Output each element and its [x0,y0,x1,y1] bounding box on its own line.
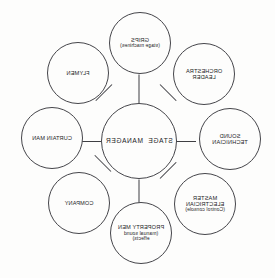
node-curtain-man[interactable]: CURTAIN MAN [21,107,83,169]
node-orchestra-leader-label-line2: LEADER [184,74,224,80]
node-orchestra-leader[interactable]: ORCHESTRA LEADER [173,43,235,105]
node-company[interactable]: COMPANY [48,172,110,234]
mirrored-artwork-layer: STAGE MANAGER GRIPS (stage machines) FLY… [0,0,275,278]
node-stage-manager[interactable]: STAGE MANAGER [101,103,177,179]
connector-center-to-orchestra-leader [160,84,177,101]
node-property-men[interactable]: PROPERTY MEN (manual sound effects) [110,202,172,264]
node-grips[interactable]: GRIPS (stage machines) [109,12,171,74]
node-sound-technician-label-line2: TECHNICIAN [210,139,250,145]
node-flymen[interactable]: FLYMEN [47,42,109,104]
connector-center-to-grips [139,75,140,105]
connector-center-to-property-men [139,180,140,204]
diagram-canvas: STAGE MANAGER GRIPS (stage machines) FLY… [0,0,275,278]
node-flymen-label: FLYMEN [64,70,91,76]
node-company-label: COMPANY [63,200,96,206]
node-sound-technician[interactable]: SOUND TECHNICIAN [199,108,261,170]
connector-center-to-sound-technician [176,141,196,142]
node-curtain-man-label: CURTAIN MAN [30,135,74,141]
node-master-electrician[interactable]: MASTER ELECTRICIAN (Control console) [174,173,236,235]
connector-center-to-curtain-man [82,141,101,142]
node-master-electrician-sublabel: (Control console) [184,207,227,213]
node-property-men-sublabel-line2: effects) [116,236,166,242]
node-grips-sublabel: (stage machines) [120,43,160,49]
node-stage-manager-label: STAGE MANAGER [103,137,174,144]
